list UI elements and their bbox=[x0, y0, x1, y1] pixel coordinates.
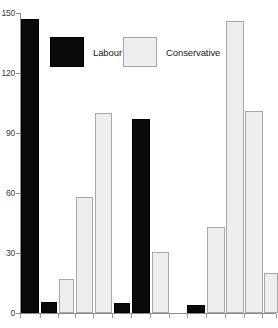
y-axis-tick-label: 60 bbox=[0, 189, 15, 198]
y-axis-tick-label: 120 bbox=[0, 69, 15, 78]
bar-labour-8[interactable] bbox=[187, 305, 205, 313]
bar-labour-5[interactable] bbox=[114, 303, 130, 313]
bar-conservative-7[interactable] bbox=[152, 252, 169, 313]
y-axis-tick-label: 90 bbox=[0, 129, 15, 138]
x-axis-tick bbox=[93, 314, 94, 318]
legend-swatch-labour-icon bbox=[50, 37, 84, 67]
y-axis-tick-label: 0 bbox=[0, 309, 15, 318]
x-axis-tick bbox=[262, 314, 263, 318]
bar-labour-0[interactable] bbox=[21, 19, 39, 313]
legend-item-labour[interactable]: Labour bbox=[50, 37, 122, 67]
bar-conservative-4[interactable] bbox=[95, 113, 112, 313]
x-axis-tick bbox=[169, 314, 170, 318]
x-axis-tick bbox=[150, 314, 151, 318]
bar-conservative-11[interactable] bbox=[245, 111, 263, 313]
legend-item-conservative[interactable]: Conservative bbox=[123, 37, 220, 67]
x-axis-tick bbox=[40, 314, 41, 318]
bar-conservative-2[interactable] bbox=[59, 279, 74, 313]
bar-conservative-10[interactable] bbox=[226, 21, 244, 313]
x-axis-tick bbox=[131, 314, 132, 318]
legend-label-conservative: Conservative bbox=[166, 47, 220, 58]
legend-label-labour: Labour bbox=[93, 47, 122, 58]
bar-conservative-12[interactable] bbox=[264, 273, 278, 313]
x-axis-tick bbox=[58, 314, 59, 318]
x-axis-tick bbox=[75, 314, 76, 318]
x-axis-tick bbox=[276, 314, 277, 318]
legend-swatch-conservative-icon bbox=[123, 37, 157, 67]
bar-labour-6[interactable] bbox=[132, 119, 150, 313]
x-axis-tick bbox=[187, 314, 188, 318]
x-axis-tick bbox=[206, 314, 207, 318]
bar-chart: 0306090120150 Labour Conservative bbox=[0, 0, 278, 328]
bar-conservative-3[interactable] bbox=[76, 197, 93, 313]
bar-labour-1[interactable] bbox=[41, 302, 57, 313]
x-axis-tick bbox=[112, 314, 113, 318]
x-axis-tick bbox=[225, 314, 226, 318]
y-axis-tick bbox=[16, 13, 21, 14]
bar-conservative-9[interactable] bbox=[207, 227, 225, 313]
x-axis-tick bbox=[20, 314, 21, 318]
y-axis-tick-label: 30 bbox=[0, 249, 15, 258]
x-axis-tick bbox=[244, 314, 245, 318]
y-axis-tick-label: 150 bbox=[0, 9, 15, 18]
